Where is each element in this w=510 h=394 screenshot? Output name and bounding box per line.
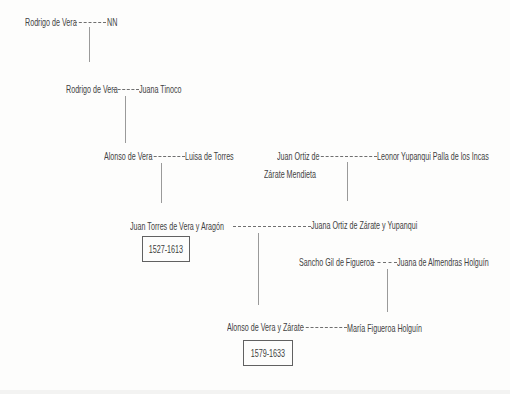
marriage-line-gen2 <box>113 89 139 90</box>
person-juan-torres-de-vera: Juan Torres de Vera y Aragón <box>130 220 224 233</box>
marriage-line-gen4a <box>233 226 311 227</box>
dates-box-alonso-de-vera-y-zarate: 1579-1633 <box>243 340 293 366</box>
descent-line-gen3a <box>161 163 162 203</box>
person-alonso-de-vera: Alonso de Vera <box>104 150 152 163</box>
person-sancho-gil: Sancho Gil de Figueroa <box>299 256 374 269</box>
person-rodrigo-de-vera-jr: Rodrigo de Vera <box>66 83 118 96</box>
dates-juan-torres: 1527-1613 <box>149 244 183 255</box>
person-juan-ortiz-line2: Zárate Mendieta <box>264 168 316 181</box>
marriage-line-gen4b <box>372 262 397 263</box>
scan-edge-artifact <box>0 390 510 394</box>
descent-line-gen2 <box>125 96 126 143</box>
descent-line-gen1 <box>89 27 90 62</box>
person-rodrigo-de-vera-sr: Rodrigo de Vera <box>25 16 77 29</box>
descent-line-gen4a <box>258 233 259 305</box>
marriage-line-gen3b <box>316 156 377 157</box>
person-luisa-de-torres: Luisa de Torres <box>185 150 234 163</box>
person-juana-de-almendras: Juana de Almendras Holguín <box>397 256 489 269</box>
family-tree-canvas: Rodrigo de Vera NN Rodrigo de Vera Juana… <box>0 0 510 394</box>
descent-line-gen4b <box>387 269 388 312</box>
person-alonso-de-vera-y-zarate: Alonso de Vera y Zárate <box>227 321 304 334</box>
person-juana-tinoco: Juana Tinoco <box>139 83 181 96</box>
dates-alonso-de-vera-y-zarate: 1579-1633 <box>251 348 285 359</box>
dates-box-juan-torres: 1527-1613 <box>142 236 190 262</box>
person-juana-ortiz-de-zarate: Juana Ortiz de Zárate y Yupanqui <box>311 219 417 232</box>
person-maria-figueroa: María Figueroa Holguín <box>347 322 422 335</box>
descent-line-gen3b <box>347 162 348 201</box>
person-juan-ortiz-line1: Juan Ortiz de <box>277 150 319 163</box>
marriage-line-gen3a <box>149 156 185 157</box>
marriage-line-gen5 <box>301 327 347 328</box>
person-leonor-yupanqui: Leonor Yupanqui Palla de los Incas <box>377 150 489 163</box>
person-nn: NN <box>107 16 117 29</box>
marriage-line-gen1 <box>74 22 106 23</box>
